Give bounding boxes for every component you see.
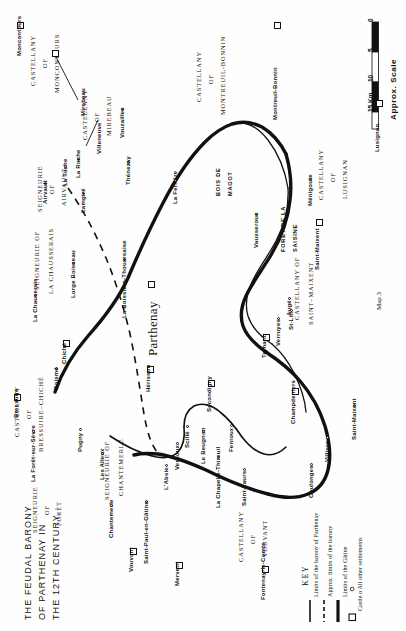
place-label-mervent: Mervent [174,562,180,586]
key-entry-approx-limit: Approx. limits of the barony [327,526,333,597]
place-label-la-ferriere: La Ferrière [172,171,178,204]
gatine-limit-line-south [266,352,330,497]
place-label-fontenay-le-comte: Fontenay-le-Comte [260,542,266,600]
place-label-la-chapelle-thireuil: La Chapelle-Thireuil [215,447,221,508]
region-label-montreuil-1: CASTELLANY [196,51,202,102]
forest-label-bois-de-magot-1: BOIS DE [216,167,222,196]
region-label-moncontours-3: MONCONTOURS [54,34,60,93]
place-label-vouzailles: Vouzailles [119,107,125,138]
key-settlement-swatch [350,587,354,591]
place-label-saint-laurs: Saint-Laurs [241,471,247,506]
place-label-labsie: L'Absie [163,467,169,490]
page-title-line-2: OF PARTHENAY IN [38,524,47,620]
place-label-vouvant: Vouvant [128,547,134,572]
place-label-la-roche: La Roche [75,149,81,178]
region-label-vouvant-1: CASTELLANY [238,511,244,562]
region-label-mirebeau-3: MIREBEAU [106,95,112,136]
region-label-foret-3: FORÊT [56,501,62,526]
key-heading: KEY [302,565,310,586]
place-label-le-beugnon: Le Beugnon [200,427,206,464]
barony-inner-line-south [242,437,286,455]
region-label-airvault-2: OF [49,184,55,194]
place-label-fenioux: Fenioux [228,428,234,452]
place-label-moncontours: Moncontours [16,16,22,56]
castle-marker-mirebeau[interactable] [52,50,59,57]
key-entry-gatine-limit: Limits of the Gâtine [342,547,348,598]
forest-label-bois-de-magot-2: MAGOT [228,171,234,196]
region-label-montreuil-2: OF [208,74,214,84]
region-label-lusignan-3: LUSIGNAN [342,159,348,199]
place-label-lorge-boisseau: Lorge Boisseau [70,250,76,298]
scale-tick-10: 10 [368,75,375,82]
place-label-champdeniers: Champdeniers [290,380,296,424]
place-label-menigoute: Ménigoute [307,174,313,206]
place-label-herisson: Hérisson [145,365,151,392]
region-label-foret-1: SEIGNEURIE [32,486,38,533]
region-label-saintmaixent-1: CASTELLANY OF [294,257,300,320]
place-label-saint-paul-en-gatine: Saint-Paul-en-Gâtine [143,501,149,564]
place-label-verruyes: Verruyes [275,319,281,346]
page-title-line-3: THE 12TH CENTURY. [52,512,61,620]
gatine-limit-line [55,122,286,392]
place-label-la-foret-sur-sevre: La Forêt-sur-Sèvre [30,425,36,482]
place-label-villiers: Villiers [324,441,330,462]
forest-label-foret-saisine-1: FORÊT DE LA [281,206,287,252]
place-label-la-boissiere-thouarsaise: La Boissière-Thouarsaise [121,240,127,318]
region-label-chausserais-2: LA CHAUSSERAIS [48,228,54,294]
region-label-lusignan-2: OF [330,172,336,182]
region-label-moncontours-2: OF [42,58,48,68]
barony-limit-line-saintmaixent [272,344,306,412]
region-label-montreuil-3: MONTREUIL-BONNIN [220,36,226,115]
place-label-villeneuve: Villeneuve [96,122,102,154]
castle-marker-lusignan[interactable] [376,100,383,107]
castle-marker-saint-maixent[interactable] [316,219,323,226]
place-label-airvault: Airvault [42,180,48,204]
region-label-lusignan-1: CASTELLANY [318,149,324,200]
place-label-les-alleux: Les Alleux [99,448,105,480]
place-label-coulonges: Coulonges [308,465,314,498]
place-label-parthenay: Parthenay [146,301,159,356]
scale-title: Approx. Scale [390,59,398,120]
place-label-vausseroux: Vausseroux [253,212,259,248]
scale-tick-0: 0 [368,18,375,22]
place-label-mirebeau: Mirebeau [80,88,86,116]
place-label-pugny: Pugny [77,433,83,452]
place-label-lusignan: Lusignan [374,124,380,152]
forest-label-foret-saisine-2: SAISINE [293,224,299,252]
place-label-boisme: Boismé [53,367,59,390]
place-label-saint-maixire: Saint-Maixent [351,398,357,440]
place-label-vernoux: Vernoux [174,445,180,470]
region-label-bressuire-3: BRESSUIRE–CHICHÉ [38,376,44,452]
region-label-mirebeau-2: OF [94,112,100,122]
scale-tick-5: 5 [368,48,375,52]
place-label-ternant: Ternant [261,335,267,358]
gatine-limit-line-east [241,154,290,352]
place-label-scille: Scillé [184,431,190,448]
region-label-bressuire-2: OF [26,409,32,419]
key-entry-barony-limit: Limits of the barony of Parthenay [313,513,319,597]
place-label-chiche: Chiché [61,343,67,364]
castle-marker-montreuil-bonnin[interactable] [274,22,281,29]
approx-barony-limit-line [68,188,157,452]
place-label-bressuire: Bressuire [13,389,19,418]
place-label-chantemerle: Chantemerle [108,499,114,538]
place-label-la-chauserais: La Chauserais [32,278,38,322]
key-entry-castle-settlement: Castle o All other settlements [357,537,363,611]
figure-caption: Map 3 [376,292,383,310]
key-castle-swatch [349,614,356,621]
region-label-vouvant-2: OF [250,534,256,544]
castle-marker-parthenay[interactable] [148,281,155,288]
region-label-moncontours-1: CASTELLANY [30,35,36,86]
place-label-st-lin: St-Lin [288,312,294,330]
region-label-foret-2: OF [44,505,50,515]
scale-tick-15km: 15 Km [368,92,375,112]
place-label-montreuil-bonnin: Montreuil-Bonnin [272,67,278,120]
region-label-saintmaixent-2: SAINT–MAIXENT [308,262,314,325]
place-label-saint-maixent: Saint-Maixent [314,228,320,270]
place-label-la-toche: La Toche [62,159,68,187]
place-label-secondigny: Secondigny [206,376,212,412]
region-label-chantemerle-2: CHANTEMERLE [118,439,124,496]
place-label-thenezay: Thénezay [125,156,131,185]
place-label-lamgire: Lamgiré [80,188,86,213]
map-canvas: THE FEUDAL BARONY OF PARTHENAY IN THE 12… [0,0,406,631]
